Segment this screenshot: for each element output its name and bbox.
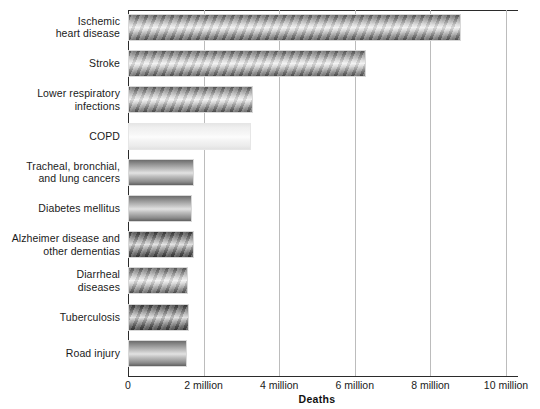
bar-fill <box>128 50 366 77</box>
x-axis-title: Deaths <box>128 393 506 405</box>
category-label-column: Ischemicheart diseaseStrokeLower respira… <box>0 8 120 378</box>
category-label-line: Diarrheal <box>0 268 120 281</box>
bar-fill <box>128 195 192 222</box>
x-tick-label: 6 million <box>336 379 375 391</box>
x-tick-label: 2 million <box>184 379 223 391</box>
category-label-line: Ischemic <box>0 15 120 28</box>
category-label-line: Stroke <box>0 57 120 70</box>
category-label-line: Lower respiratory <box>0 87 120 100</box>
bar-fill <box>128 304 189 331</box>
category-label-line: Tuberculosis <box>0 311 120 324</box>
bar[interactable] <box>128 86 253 113</box>
axis-line-top <box>128 10 518 11</box>
x-tick-label: 8 million <box>411 379 450 391</box>
x-tick-label: 10 million <box>484 379 528 391</box>
category-label: Diabetes mellitus <box>0 202 120 215</box>
category-label: Road injury <box>0 347 120 360</box>
bar[interactable] <box>128 123 251 150</box>
bar[interactable] <box>128 159 194 186</box>
category-label-line: other dementias <box>0 245 120 258</box>
category-label-line: infections <box>0 100 120 113</box>
category-label: Lower respiratoryinfections <box>0 87 120 112</box>
bar-fill <box>128 340 187 367</box>
gridline <box>430 10 431 376</box>
bar-fill <box>128 159 194 186</box>
bar[interactable] <box>128 340 187 367</box>
x-tick-label: 0 <box>125 379 131 391</box>
bar-fill <box>128 86 253 113</box>
category-label-line: heart disease <box>0 27 120 40</box>
category-label-line: Tracheal, bronchial, <box>0 160 120 173</box>
bar[interactable] <box>128 195 192 222</box>
category-label: Tuberculosis <box>0 311 120 324</box>
category-label-line: Diabetes mellitus <box>0 202 120 215</box>
bar[interactable] <box>128 304 189 331</box>
bar[interactable] <box>128 50 366 77</box>
plot-area <box>128 10 506 376</box>
gridline <box>506 10 507 376</box>
category-label: Diarrhealdiseases <box>0 268 120 293</box>
bar-fill <box>128 14 461 41</box>
bar[interactable] <box>128 231 194 258</box>
bar-chart: Ischemicheart diseaseStrokeLower respira… <box>0 0 540 409</box>
category-label-line: diseases <box>0 281 120 294</box>
bar-fill <box>128 123 251 150</box>
bar[interactable] <box>128 14 461 41</box>
category-label: Tracheal, bronchial,and lung cancers <box>0 160 120 185</box>
bar-fill <box>128 267 188 294</box>
category-label-line: Road injury <box>0 347 120 360</box>
category-label: COPD <box>0 130 120 143</box>
axis-line-bottom <box>128 376 518 377</box>
bar-fill <box>128 231 194 258</box>
category-label: Ischemicheart disease <box>0 15 120 40</box>
category-label-line: Alzheimer disease and <box>0 232 120 245</box>
category-label-line: COPD <box>0 130 120 143</box>
bar[interactable] <box>128 267 188 294</box>
category-label: Alzheimer disease andother dementias <box>0 232 120 257</box>
category-label-line: and lung cancers <box>0 172 120 185</box>
x-tick-label: 4 million <box>260 379 299 391</box>
category-label: Stroke <box>0 57 120 70</box>
